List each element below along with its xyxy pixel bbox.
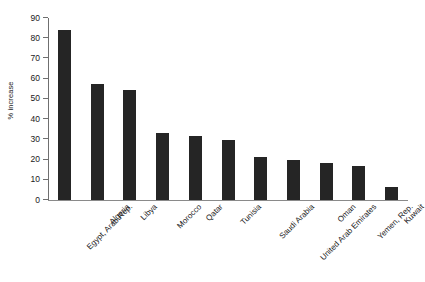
x-axis-tick-labels: Egypt, Arab Rep.AlgeriaLibyaMoroccoQatar… bbox=[48, 203, 408, 282]
bar bbox=[287, 160, 300, 200]
plot-area: 0102030405060708090 bbox=[48, 18, 408, 200]
x-tick-label: Libya bbox=[139, 203, 158, 222]
y-tick-label: 70 bbox=[31, 54, 40, 63]
y-tick-label: 90 bbox=[31, 13, 40, 22]
x-tick-label: Tunisia bbox=[239, 203, 263, 227]
bar bbox=[320, 163, 333, 200]
bar bbox=[254, 157, 267, 200]
y-tick-label: 20 bbox=[31, 155, 40, 164]
y-tick-label: 50 bbox=[31, 94, 40, 103]
y-tick-label: 60 bbox=[31, 74, 40, 83]
y-tick-label: 80 bbox=[31, 33, 40, 42]
x-tick-label: Qatar bbox=[205, 203, 225, 223]
y-axis-title: % increase bbox=[2, 0, 18, 200]
bar bbox=[58, 30, 71, 200]
bar-series bbox=[48, 18, 408, 200]
x-tick-label: Saudi Arabia bbox=[278, 203, 316, 241]
bar bbox=[123, 90, 136, 200]
x-tick-label: Morocco bbox=[176, 203, 203, 230]
bar bbox=[189, 136, 202, 200]
y-tick-label: 10 bbox=[31, 175, 40, 184]
y-tick-label: 40 bbox=[31, 114, 40, 123]
bar bbox=[156, 133, 169, 200]
bar bbox=[91, 84, 104, 200]
y-axis-title-text: % increase bbox=[6, 81, 15, 119]
y-tick-label: 30 bbox=[31, 135, 40, 144]
bar bbox=[222, 140, 235, 200]
bar bbox=[385, 187, 398, 200]
y-tick-label: 0 bbox=[35, 195, 40, 204]
bar bbox=[352, 166, 365, 200]
